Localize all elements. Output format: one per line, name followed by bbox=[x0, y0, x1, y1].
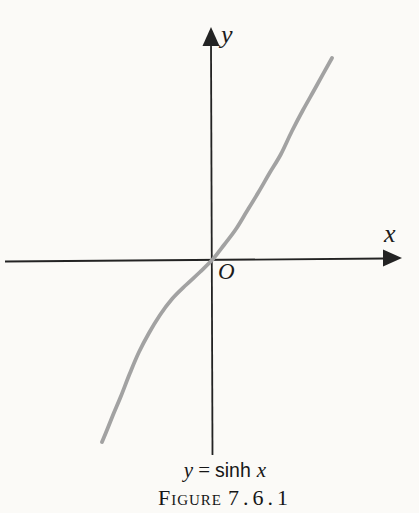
y-axis-line bbox=[211, 44, 213, 455]
equation-argument: x bbox=[257, 458, 266, 482]
figure-caption: Figure7.6.1 bbox=[75, 486, 375, 510]
curve-equation: y=sinhx bbox=[75, 458, 375, 482]
y-axis-label: y bbox=[221, 22, 233, 48]
x-axis-line bbox=[5, 259, 385, 262]
equation-function-name: sinh bbox=[215, 459, 251, 481]
caption-word: Figure bbox=[158, 485, 222, 510]
figure-7-6-1: y x O y=sinhx Figure7.6.1 bbox=[0, 0, 419, 513]
x-axis-label: x bbox=[384, 221, 396, 247]
sinh-curve bbox=[102, 58, 332, 442]
y-axis-arrowhead-icon bbox=[203, 27, 220, 46]
caption-number: 7.6.1 bbox=[228, 485, 292, 510]
equation-equals-sign: = bbox=[198, 458, 210, 482]
origin-label: O bbox=[218, 260, 235, 283]
equation-lhs: y bbox=[184, 458, 193, 482]
sinh-graph bbox=[0, 0, 419, 513]
x-axis-arrowhead-icon bbox=[383, 250, 402, 267]
